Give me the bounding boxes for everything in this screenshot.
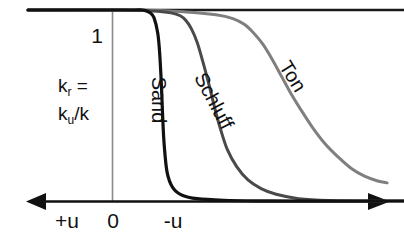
permeability-curve-figure: 1 kr = ku/k +u 0 -u Sand Schluff Ton (0, 0, 404, 237)
kr-k-glyph: k (58, 75, 68, 96)
left-arrowhead (26, 193, 46, 210)
chart-svg: 1 kr = ku/k +u 0 -u Sand Schluff Ton (0, 0, 404, 237)
ku-subscript-u: u (68, 113, 75, 127)
x-tick-label-zero: 0 (107, 209, 119, 232)
x-tick-label-minus-u: -u (164, 209, 183, 232)
ku-k-glyph: k (58, 103, 68, 124)
y-axis-caption-line1: kr = (58, 75, 88, 99)
curve-label-ton: Ton (275, 57, 311, 96)
kr-equals: = (72, 75, 88, 96)
y-axis-caption-line2: ku/k (58, 103, 89, 127)
x-tick-label-plus-u: +u (55, 209, 79, 232)
curve-label-sand: Sand (148, 77, 170, 124)
y-tick-label-one: 1 (91, 24, 103, 47)
curve-label-schluff: Schluff (190, 69, 238, 133)
ku-over-k: /k (74, 103, 89, 124)
